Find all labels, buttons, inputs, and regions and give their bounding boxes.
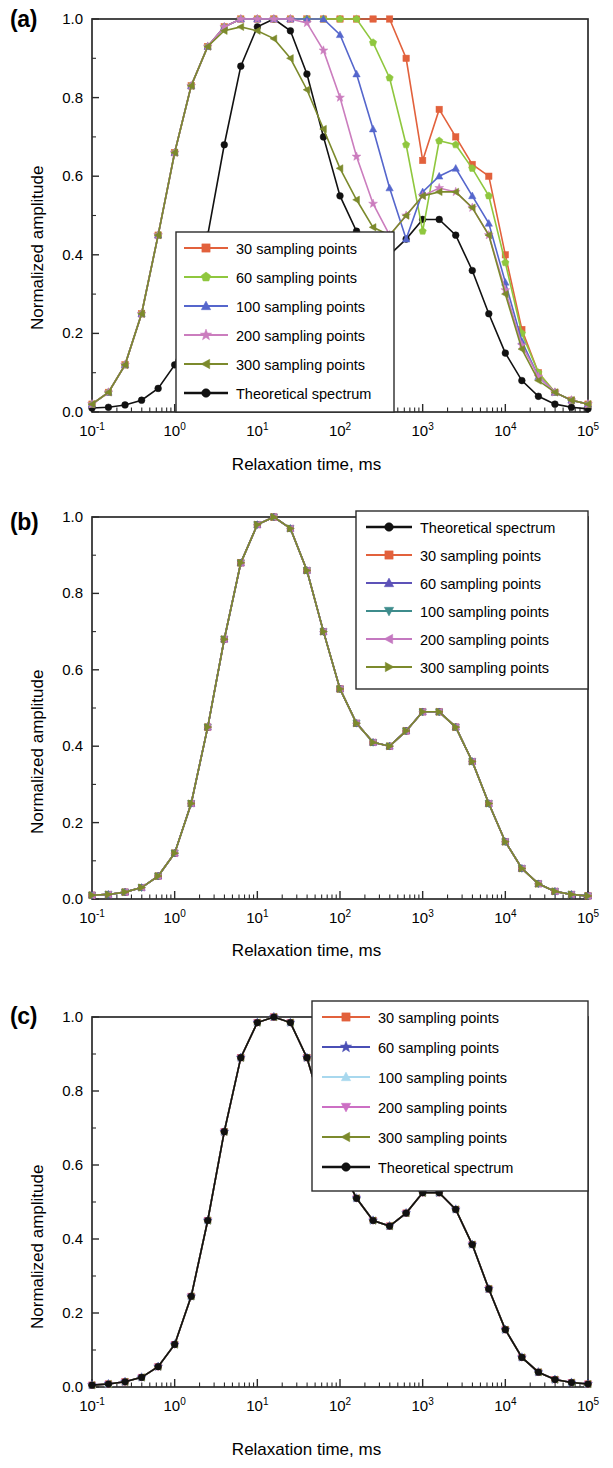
x-tick-label: 10-1 [79, 908, 105, 926]
data-point-marker [270, 35, 277, 42]
legend: Theoretical spectrum30 sampling points60… [356, 511, 588, 689]
legend-label: Theoretical spectrum [236, 386, 371, 402]
data-point-marker [304, 1054, 311, 1061]
data-point-marker [237, 23, 244, 30]
y-tick-label: 0.6 [62, 167, 83, 184]
y-tick-label: 0.0 [62, 403, 83, 420]
data-point-marker [502, 259, 509, 266]
data-point-marker [502, 1326, 509, 1333]
y-tick-label: 1.0 [62, 10, 83, 27]
legend-label: 100 sampling points [378, 1070, 507, 1086]
data-point-marker [419, 157, 425, 163]
x-tick-label: 101 [246, 421, 269, 439]
y-tick-label: 0.0 [62, 890, 83, 907]
data-point-marker [370, 1217, 377, 1224]
data-point-marker [319, 46, 328, 54]
data-point-marker [552, 401, 559, 408]
legend-label: Theoretical spectrum [378, 1160, 513, 1176]
data-point-marker [369, 125, 376, 132]
data-point-marker [352, 152, 361, 160]
data-point-marker [287, 1019, 294, 1026]
x-tick-label: 102 [329, 421, 352, 439]
data-point-marker [369, 199, 378, 207]
legend-marker-circle-icon [202, 389, 211, 398]
y-tick-label: 1.0 [62, 1008, 83, 1025]
data-point-marker [552, 1376, 559, 1383]
data-point-marker [105, 1381, 112, 1388]
y-tick-label: 0.2 [62, 814, 83, 831]
data-point-marker [519, 1354, 526, 1361]
legend-label: 60 sampling points [236, 270, 357, 286]
legend-label: 100 sampling points [420, 604, 549, 620]
y-tick-label: 0.4 [62, 246, 83, 263]
data-point-marker [105, 404, 112, 411]
legend-marker-square-icon [385, 551, 393, 559]
data-point-marker [171, 1341, 178, 1348]
data-point-marker [138, 1374, 145, 1381]
data-point-marker [155, 385, 162, 392]
data-point-marker [155, 1363, 162, 1370]
data-point-marker [585, 1381, 592, 1388]
legend-label: 60 sampling points [420, 576, 541, 592]
x-tick-label: 105 [577, 421, 600, 439]
y-tick-label: 0.8 [62, 89, 83, 106]
x-tick-label: 103 [412, 421, 435, 439]
legend-marker-square-icon [342, 1013, 350, 1021]
panel-c: (c) Normalized amplitude Relaxation time… [0, 979, 613, 1468]
legend-label: 300 sampling points [236, 357, 365, 373]
y-tick-label: 0.4 [62, 737, 83, 754]
data-point-marker [535, 393, 542, 400]
y-tick-label: 1.0 [62, 508, 83, 525]
legend-label: 30 sampling points [420, 548, 541, 564]
y-tick-label: 0.8 [62, 1082, 83, 1099]
data-point-marker [287, 27, 294, 34]
data-point-marker [386, 16, 392, 22]
panel-a: (a) Normalized amplitude Relaxation time… [0, 0, 613, 489]
data-point-marker [452, 165, 459, 172]
data-point-marker [237, 63, 244, 70]
y-tick-label: 0.6 [62, 1156, 83, 1173]
data-point-marker [138, 397, 145, 404]
x-tick-label: 103 [412, 1396, 435, 1414]
data-point-marker [436, 137, 443, 144]
legend-marker-circle-icon [385, 523, 394, 532]
legend-label: 300 sampling points [378, 1130, 507, 1146]
data-point-marker [237, 1054, 244, 1061]
x-tick-label: 103 [412, 908, 435, 926]
data-point-marker [485, 1286, 492, 1293]
legend-label: 300 sampling points [420, 660, 549, 676]
data-point-marker [402, 141, 409, 148]
data-point-marker [353, 70, 360, 77]
data-point-marker [486, 173, 492, 179]
data-point-marker [452, 1206, 459, 1213]
data-point-marker [436, 216, 443, 223]
data-point-marker [337, 192, 344, 199]
data-point-marker [519, 377, 526, 384]
x-tick-label: 104 [494, 421, 517, 439]
legend-label: 200 sampling points [236, 328, 365, 344]
data-point-marker [403, 1210, 410, 1217]
y-tick-label: 0.6 [62, 661, 83, 678]
data-point-marker [188, 1293, 195, 1300]
data-point-marker [370, 16, 376, 22]
data-point-marker [568, 1379, 575, 1386]
data-point-marker [122, 1378, 129, 1385]
data-point-marker [485, 310, 492, 317]
x-tick-label: 102 [329, 1396, 352, 1414]
y-tick-label: 0.0 [62, 1378, 83, 1395]
data-point-marker [386, 74, 393, 81]
x-tick-label: 100 [164, 1396, 187, 1414]
data-point-marker [271, 1014, 278, 1021]
panel-a-plot: 0.00.20.40.60.81.010-1100101102103104105… [0, 0, 613, 489]
data-point-marker [436, 106, 442, 112]
data-point-marker [453, 134, 459, 140]
x-tick-label: 10-1 [79, 1396, 105, 1414]
legend-label: Theoretical spectrum [420, 520, 555, 536]
legend-label: 200 sampling points [378, 1100, 507, 1116]
data-point-marker [221, 1128, 228, 1135]
data-point-marker [469, 267, 476, 274]
panel-b: (b) Normalized amplitude Relaxation time… [0, 489, 613, 978]
data-point-marker [204, 1217, 211, 1224]
data-point-marker [353, 1195, 360, 1202]
x-tick-label: 100 [164, 421, 187, 439]
